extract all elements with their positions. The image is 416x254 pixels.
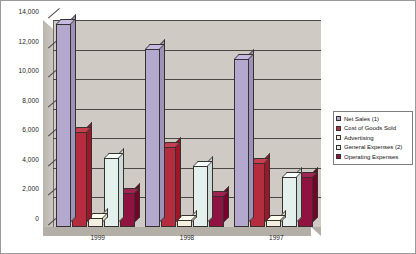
legend-item[interactable]: Net Sales (1) bbox=[336, 114, 410, 123]
legend-swatch-icon bbox=[336, 145, 341, 150]
legend-swatch-icon bbox=[336, 116, 341, 121]
legend-item[interactable]: Advertising bbox=[336, 133, 410, 142]
bar-side bbox=[160, 39, 165, 222]
bar[interactable] bbox=[56, 24, 71, 227]
bar-side bbox=[249, 49, 254, 222]
legend-item-label: Advertising bbox=[344, 134, 374, 142]
bar[interactable] bbox=[234, 59, 249, 227]
plot-back-wall bbox=[53, 20, 321, 227]
y-axis-tick bbox=[42, 41, 54, 51]
legend-item-label: General Expenses (2) bbox=[344, 143, 402, 151]
gridline bbox=[53, 79, 321, 80]
bar-face bbox=[88, 218, 103, 227]
legend-item[interactable]: General Expenses (2) bbox=[336, 143, 410, 152]
x-axis-tick-label: 1998 bbox=[167, 234, 207, 241]
bar-face bbox=[145, 49, 160, 227]
x-axis-tick-label: 1999 bbox=[78, 234, 118, 241]
gridline bbox=[53, 138, 321, 139]
bar[interactable] bbox=[145, 49, 160, 227]
legend-item[interactable]: Operating Expenses bbox=[336, 152, 410, 161]
legend-swatch-icon bbox=[336, 135, 341, 140]
bar-face bbox=[266, 220, 281, 227]
y-axis-tick-label: 14,000 bbox=[5, 8, 39, 15]
legend-item-label: Net Sales (1) bbox=[344, 115, 379, 123]
bar-side bbox=[119, 148, 124, 222]
gridline bbox=[53, 197, 321, 198]
y-axis-tick bbox=[42, 129, 54, 139]
legend-swatch-icon bbox=[336, 154, 341, 159]
y-axis-tick bbox=[42, 11, 54, 21]
bar-side bbox=[71, 14, 76, 222]
y-axis-tick bbox=[42, 218, 54, 228]
bar-side bbox=[265, 153, 270, 222]
chart-legend: Net Sales (1)Cost of Goods SoldAdvertisi… bbox=[333, 111, 413, 165]
gridline bbox=[53, 20, 321, 21]
bar-face bbox=[282, 177, 297, 227]
legend-swatch-icon bbox=[336, 126, 341, 131]
y-axis-tick-label: 4,000 bbox=[5, 156, 39, 163]
y-axis-tick bbox=[42, 188, 54, 198]
bar[interactable] bbox=[177, 220, 192, 227]
x-axis-tick-label: 1997 bbox=[256, 234, 296, 241]
bar-face bbox=[56, 24, 71, 227]
y-axis-tick-label: 2,000 bbox=[5, 185, 39, 192]
gridline bbox=[53, 109, 321, 110]
y-axis-tick-label: 12,000 bbox=[5, 38, 39, 45]
y-axis-tick-label: 8,000 bbox=[5, 97, 39, 104]
gridline bbox=[53, 50, 321, 51]
bar-side bbox=[176, 137, 181, 222]
legend-item-label: Operating Expenses bbox=[344, 153, 398, 161]
bar[interactable] bbox=[266, 220, 281, 227]
chart-frame: 14,00012,00010,0008,0006,0004,0002,0000 … bbox=[0, 0, 416, 254]
bar-side bbox=[208, 156, 213, 222]
legend-item[interactable]: Cost of Goods Sold bbox=[336, 124, 410, 133]
y-axis-tick-label: 6,000 bbox=[5, 126, 39, 133]
bar-face bbox=[177, 220, 192, 227]
plot-area bbox=[53, 20, 321, 227]
bar-side bbox=[87, 122, 92, 222]
y-axis-tick bbox=[42, 159, 54, 169]
bar[interactable] bbox=[282, 177, 297, 227]
gridline bbox=[53, 168, 321, 169]
y-axis-tick bbox=[42, 70, 54, 80]
bar[interactable] bbox=[88, 218, 103, 227]
y-axis-tick-label: 0 bbox=[5, 215, 39, 222]
legend-item-label: Cost of Goods Sold bbox=[344, 124, 396, 132]
bar-face bbox=[234, 59, 249, 227]
y-axis-tick-label: 10,000 bbox=[5, 67, 39, 74]
y-axis-tick bbox=[42, 100, 54, 110]
